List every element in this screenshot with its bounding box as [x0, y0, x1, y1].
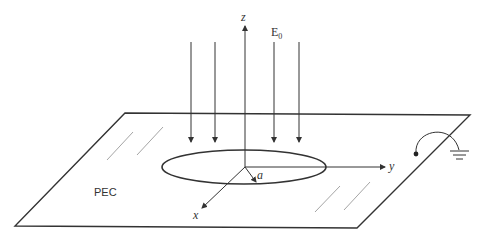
- pec-label: PEC: [94, 187, 117, 198]
- diagram-canvas: [0, 0, 484, 243]
- hatch-marks: [107, 127, 370, 212]
- y-axis-label: y: [389, 160, 394, 172]
- x-axis-label: x: [193, 209, 198, 221]
- field-label: E0: [271, 26, 282, 41]
- pec-plate: [15, 113, 470, 228]
- ground-icon: [450, 151, 469, 159]
- ground-connection: [414, 132, 469, 159]
- radius-line: [245, 167, 256, 182]
- z-axis-label: z: [241, 11, 246, 23]
- terminal-dot: [414, 152, 419, 157]
- radius-label: a: [257, 169, 263, 181]
- x-axis: [202, 167, 245, 208]
- pec-plane-diagram: z E0 y x a PEC: [0, 0, 484, 243]
- field-subscript: 0: [278, 32, 282, 41]
